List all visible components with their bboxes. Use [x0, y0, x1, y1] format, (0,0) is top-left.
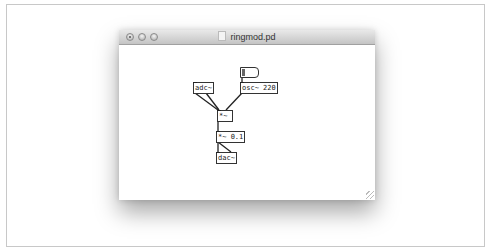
patch-canvas[interactable]: adc~ osc~ 220 *~ *~ 0.1 dac~ — [119, 45, 375, 200]
object-gain[interactable]: *~ 0.1 — [216, 131, 245, 143]
object-dac[interactable]: dac~ — [216, 152, 237, 164]
cord-adc-left-to-mul[interactable] — [195, 93, 218, 110]
object-osc[interactable]: osc~ 220 — [240, 82, 278, 94]
cord-gain-to-dac-right[interactable] — [218, 142, 231, 152]
cord-adc-right-to-mul[interactable] — [206, 93, 219, 110]
object-multiply[interactable]: *~ — [217, 110, 233, 122]
window-title: ringmod.pd — [230, 32, 275, 42]
cord-osc-to-mul[interactable] — [226, 93, 242, 110]
document-icon — [218, 31, 226, 41]
message-box[interactable] — [240, 67, 259, 78]
pd-patch-window: ringmod.pd adc~ osc~ 220 *~ *~ 0.1 dac~ — [119, 30, 375, 200]
window-title-wrap: ringmod.pd — [119, 30, 375, 44]
resize-grip[interactable] — [366, 191, 374, 199]
title-bar[interactable]: ringmod.pd — [119, 30, 375, 45]
object-adc[interactable]: adc~ — [193, 82, 214, 94]
